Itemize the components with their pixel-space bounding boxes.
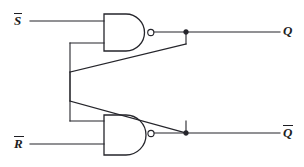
wire-feedback-qbar-to-top-gate: [70, 101, 186, 133]
nand-gate-bottom-body: [104, 115, 146, 155]
nand-gate-bottom-inverter-bubble: [148, 130, 154, 136]
wire-feedback-q-to-bottom-gate: [70, 44, 186, 72]
junction-dot-q: [184, 30, 189, 35]
nand-gate-top-body: [104, 14, 145, 51]
label-output-qbar-text: Q: [283, 125, 292, 139]
label-input-reset-text: R: [14, 136, 23, 150]
sr-latch-diagram: S R Q Q: [0, 0, 304, 167]
nand-gate-top-inverter-bubble: [148, 29, 154, 35]
circuit-schematic-canvas: [0, 0, 304, 167]
label-output-q-text: Q: [283, 23, 292, 38]
label-input-set-text: S: [14, 13, 21, 27]
label-output-q: Q: [283, 24, 292, 37]
label-input-reset: R: [14, 136, 23, 150]
label-input-set: S: [14, 13, 21, 27]
junction-dot-qbar: [184, 131, 189, 136]
label-output-qbar: Q: [283, 125, 292, 139]
